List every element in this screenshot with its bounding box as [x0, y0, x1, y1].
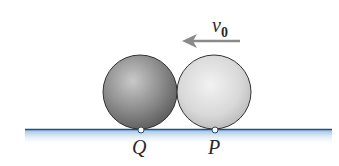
- velocity-arrow-icon: [182, 34, 240, 48]
- right-ball: [177, 55, 251, 129]
- label-q: Q: [132, 136, 146, 159]
- velocity-subscript: 0: [221, 25, 228, 40]
- velocity-symbol: v: [212, 14, 221, 36]
- velocity-label: v0: [212, 14, 228, 41]
- label-p: P: [208, 136, 220, 159]
- ground: [25, 129, 332, 145]
- contact-point-p: [212, 127, 218, 133]
- contact-point-q: [138, 127, 144, 133]
- left-ball: [103, 55, 177, 129]
- diagram-canvas: [0, 0, 339, 166]
